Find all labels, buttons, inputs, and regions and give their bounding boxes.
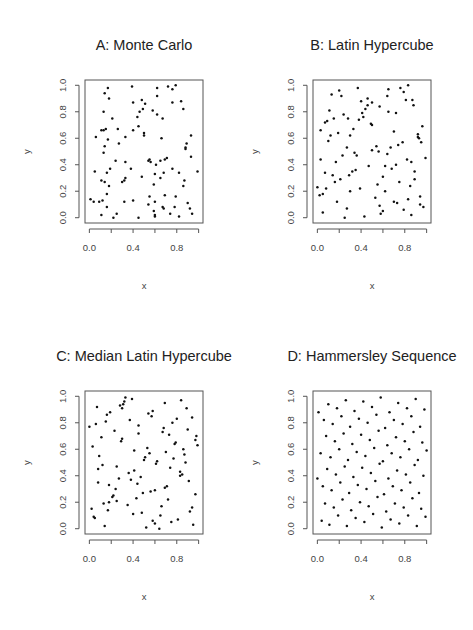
y-axis-label: y	[249, 460, 260, 465]
x-tick-label: 0.0	[83, 553, 96, 564]
data-point	[179, 471, 182, 474]
data-point	[405, 99, 408, 102]
data-point	[389, 518, 392, 521]
data-point	[166, 485, 169, 488]
data-point	[328, 109, 331, 112]
data-point	[107, 509, 110, 512]
data-point	[342, 113, 345, 116]
data-point	[421, 125, 424, 128]
data-point	[339, 481, 342, 484]
data-point	[394, 502, 397, 505]
data-point	[156, 113, 159, 116]
data-point	[374, 197, 377, 200]
data-points	[316, 396, 428, 528]
data-point	[115, 212, 118, 215]
y-tick-label: 1.0	[57, 79, 68, 92]
data-point	[355, 451, 358, 454]
data-point	[151, 520, 154, 523]
data-point	[144, 456, 147, 459]
data-point	[407, 514, 410, 517]
data-point	[151, 410, 154, 413]
data-point	[407, 84, 410, 87]
data-point	[141, 512, 144, 515]
data-point	[121, 407, 124, 410]
data-point	[343, 216, 346, 219]
data-point	[169, 467, 172, 470]
data-point	[101, 199, 104, 202]
data-point	[143, 134, 146, 137]
data-point	[413, 178, 416, 181]
data-point	[367, 505, 370, 508]
data-point	[130, 478, 133, 481]
y-tick-label: 0.2	[57, 185, 68, 198]
data-point	[322, 211, 325, 214]
data-point	[422, 206, 425, 209]
data-point	[346, 207, 349, 210]
y-tick-label: 0.8	[57, 416, 68, 429]
data-point	[195, 435, 198, 438]
data-point	[120, 440, 123, 443]
data-point	[154, 201, 157, 204]
data-point	[370, 472, 373, 475]
data-point	[420, 141, 423, 144]
data-point	[130, 167, 133, 170]
data-point	[184, 461, 187, 464]
data-point	[382, 210, 385, 213]
data-point	[173, 206, 176, 209]
data-point	[362, 400, 365, 403]
data-point	[343, 465, 346, 468]
data-point	[98, 455, 101, 458]
x-tick-label: 0.8	[170, 553, 183, 564]
data-point	[136, 482, 139, 485]
data-point	[350, 509, 353, 512]
data-point	[102, 129, 105, 132]
data-point	[107, 87, 110, 90]
data-point	[164, 486, 167, 489]
data-point	[387, 111, 390, 114]
data-point	[372, 513, 375, 516]
data-point	[381, 526, 384, 529]
data-point	[171, 101, 174, 104]
data-point	[161, 117, 164, 120]
data-point	[148, 158, 151, 161]
data-point	[393, 201, 396, 204]
data-point	[95, 136, 98, 139]
data-point	[335, 473, 338, 476]
data-point	[387, 88, 390, 91]
data-point	[404, 440, 407, 443]
data-point	[109, 411, 112, 414]
data-point	[153, 183, 156, 186]
data-point	[379, 396, 382, 399]
data-point	[194, 439, 197, 442]
data-point	[400, 489, 403, 492]
data-point	[146, 447, 149, 450]
data-point	[349, 426, 352, 429]
x-axis: 0.00.40.8	[311, 229, 427, 253]
data-point	[102, 111, 105, 114]
data-point	[183, 453, 186, 456]
data-point	[416, 525, 419, 528]
data-point	[96, 406, 99, 409]
data-point	[173, 443, 176, 446]
x-tick-label: 0.8	[398, 553, 411, 564]
x-tick-label: 0.0	[311, 553, 324, 564]
data-point	[124, 396, 127, 399]
data-point	[141, 99, 144, 102]
data-point	[396, 202, 399, 205]
y-tick-label: 0.4	[285, 469, 296, 482]
data-point	[178, 171, 181, 174]
data-point	[408, 448, 411, 451]
data-point	[373, 447, 376, 450]
data-point	[348, 492, 351, 495]
data-point	[100, 179, 103, 182]
y-tick-label: 0.6	[285, 443, 296, 456]
data-point	[399, 87, 402, 90]
data-point	[347, 117, 350, 120]
y-tick-label: 0.2	[57, 496, 68, 509]
data-point	[122, 403, 125, 406]
data-point	[369, 439, 372, 442]
data-point	[114, 160, 117, 163]
y-tick-label: 0.4	[285, 158, 296, 171]
data-point	[389, 146, 392, 149]
y-tick-label: 0.6	[57, 132, 68, 145]
